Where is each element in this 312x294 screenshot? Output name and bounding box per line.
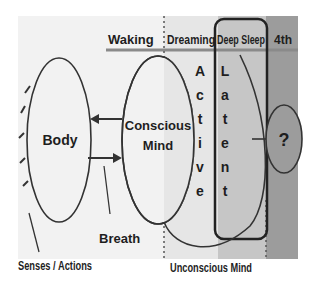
active-letter: i <box>198 135 202 151</box>
body-label: Body <box>43 132 78 148</box>
senses-actions-label: Senses / Actions <box>18 259 92 273</box>
state-label-deep-sleep: Deep Sleep <box>217 33 265 47</box>
unknown-label: ? <box>279 130 290 150</box>
latent-letter: t <box>223 183 228 199</box>
conscious-label-line2: Mind <box>143 138 173 153</box>
latent-letter: e <box>221 135 229 151</box>
state-label-fourth: 4th <box>274 33 292 47</box>
latent-letter: t <box>223 111 228 127</box>
latent-letter: L <box>221 63 230 79</box>
unconscious-mind-label: Unconscious Mind <box>170 261 252 275</box>
active-letter: c <box>196 87 204 103</box>
state-label-dreaming: Dreaming <box>167 33 215 47</box>
latent-letter: a <box>221 87 229 103</box>
conscious-label-line1: Conscious <box>125 118 191 133</box>
states-of-mind-diagram: Waking Dreaming Deep Sleep 4th Body Cons… <box>0 0 312 294</box>
active-letter: e <box>196 183 204 199</box>
active-letter: t <box>198 111 203 127</box>
state-label-waking: Waking <box>108 32 154 47</box>
latent-letter: n <box>221 159 230 175</box>
breath-label: Breath <box>99 231 140 246</box>
active-letter: v <box>196 159 204 175</box>
active-letter: A <box>195 63 205 79</box>
